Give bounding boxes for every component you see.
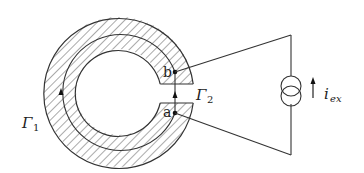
label-current-main: i — [324, 85, 329, 103]
hatched-core — [0, 0, 364, 173]
label-point-a: a — [163, 104, 171, 120]
label-current-sub: ex — [330, 93, 342, 104]
label-gamma2-main: Γ — [195, 86, 207, 104]
diagram-canvas: b a Γ 1 Γ 2 i ex — [0, 0, 364, 173]
label-gamma2-sub: 2 — [207, 94, 213, 105]
label-gamma1-main: Γ — [21, 114, 33, 132]
label-gamma1-sub: 1 — [33, 122, 39, 133]
label-point-b: b — [163, 64, 172, 80]
